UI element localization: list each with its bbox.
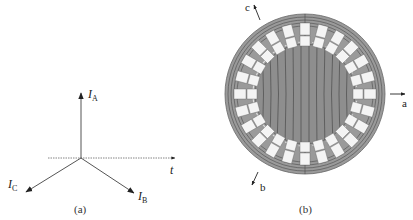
label-ic: IC [8, 178, 17, 193]
caption-b: (b) [299, 204, 312, 215]
label-axis-c: c [245, 2, 250, 13]
axis-b-arrow [252, 172, 258, 185]
axis-c-arrow [254, 5, 260, 20]
caption-a: (a) [74, 204, 86, 215]
label-ia: IA [88, 88, 98, 103]
label-axis-a: a [402, 98, 407, 109]
machine-cross-section [225, 5, 405, 185]
label-ib: IB [138, 190, 147, 205]
label-axis-b: b [260, 182, 266, 193]
label-time-axis: t [170, 164, 173, 176]
figure-canvas [0, 0, 413, 220]
vector-ib [81, 158, 134, 193]
phasor-diagram [26, 93, 175, 193]
vector-ic [26, 158, 81, 192]
